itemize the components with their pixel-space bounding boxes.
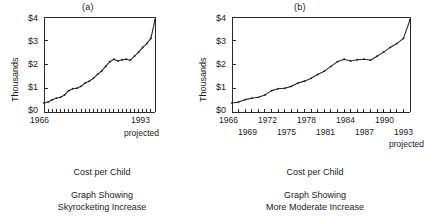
x-tick-label-b-1993: 1993 bbox=[394, 127, 413, 137]
data-points-b bbox=[231, 19, 411, 104]
data-line-b bbox=[232, 20, 410, 103]
x-tick-label-a-end: 1993 bbox=[131, 115, 150, 125]
x-tick-label-b-1984: 1984 bbox=[336, 115, 355, 125]
x-tick-label-b-1990: 1990 bbox=[375, 115, 394, 125]
caption-a-line2: Graph Showing bbox=[22, 189, 182, 201]
x-tick-label-b-1981: 1981 bbox=[316, 127, 335, 137]
x-tick-label-a-start: 1966 bbox=[30, 115, 49, 125]
caption-a-line1: Cost per Child bbox=[22, 166, 182, 178]
caption-b-line3: More Moderate Increase bbox=[230, 201, 400, 213]
x-tick-label-b-1975: 1975 bbox=[277, 127, 296, 137]
projected-note-a: projected bbox=[124, 128, 159, 138]
data-line-a bbox=[44, 20, 155, 103]
caption-b-line2: Graph Showing bbox=[230, 189, 400, 201]
chart-panel-a: (a) Thousands $4 $3 $2 $1 $0 bbox=[0, 0, 200, 219]
x-tick-label-b-1972: 1972 bbox=[258, 115, 277, 125]
caption-a-line3: Skyrocketing Increase bbox=[22, 201, 182, 213]
chart-panel-b: (b) Thousands $4 $3 $2 $1 $0 bbox=[190, 0, 418, 219]
caption-b-line1: Cost per Child bbox=[230, 166, 400, 178]
x-tick-label-b-1966: 1966 bbox=[219, 115, 238, 125]
projected-note-b: projected bbox=[389, 139, 424, 149]
x-tick-label-b-1987: 1987 bbox=[355, 127, 374, 137]
x-tick-label-b-1978: 1978 bbox=[297, 115, 316, 125]
data-points-a bbox=[43, 19, 156, 104]
x-tick-label-b-1969: 1969 bbox=[238, 127, 257, 137]
